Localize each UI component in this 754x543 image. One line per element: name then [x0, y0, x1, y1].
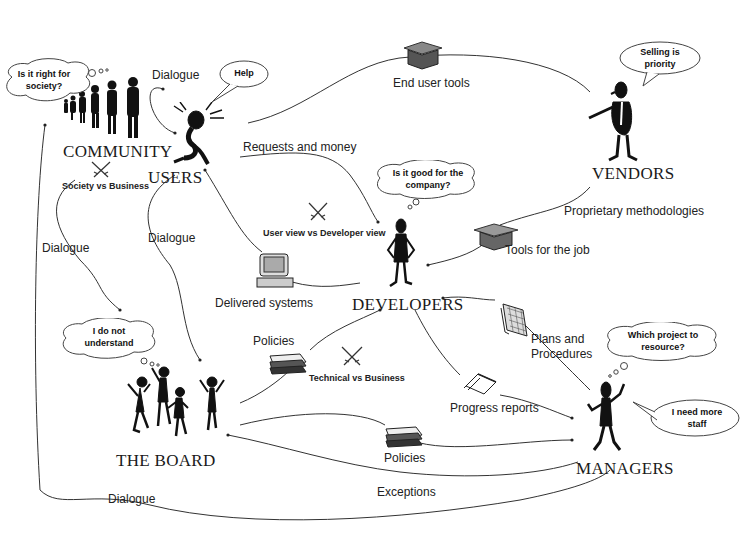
speech-text-vendors: Selling is priority	[628, 44, 692, 72]
flow-label-dialogue-community-board: Dialogue	[42, 241, 89, 255]
flow-label-dialogue-bottom: Dialogue	[108, 492, 155, 506]
thought-text-community: Is it right for society?	[4, 63, 84, 97]
flow-label-requests-money: Requests and money	[243, 140, 356, 154]
flow-label-plans-procedures: Plans and Procedures	[531, 332, 591, 362]
flow-label-policies-board-managers: Policies	[384, 451, 425, 465]
papers-stack-icon	[264, 352, 308, 376]
crossed-swords-icon	[90, 160, 112, 180]
flow-label-policies-board-developers: Policies	[253, 334, 294, 348]
computer-icon-delivered-systems	[255, 252, 295, 290]
speech-text-users: Help	[222, 63, 266, 83]
thought-text-managers: Which project to resource?	[615, 326, 711, 356]
thought-text-board: I do not understand	[78, 322, 140, 352]
flow-label-tools-for-job: Tools for the job	[505, 243, 590, 257]
flow-label-dialogue-users-board: Dialogue	[148, 231, 195, 245]
reports-stack-icon	[462, 370, 504, 398]
box-icon-end-user-tools	[400, 38, 446, 70]
flow-label-dialogue-community-users: Dialogue	[152, 68, 199, 82]
crossed-swords-icon	[307, 201, 329, 223]
conflict-user-developer: User view vs Developer view	[263, 228, 386, 238]
actor-vendors: VENDORS	[592, 164, 674, 184]
flow-label-exceptions: Exceptions	[377, 485, 436, 499]
conflict-technical-business: Technical vs Business	[309, 373, 405, 383]
papers-stack-icon	[380, 425, 424, 449]
flow-label-progress-reports: Progress reports	[450, 401, 539, 415]
developer-figure-icon	[384, 218, 420, 290]
actor-the-board: THE BOARD	[116, 451, 216, 471]
speech-text-managers: I need more staff	[662, 404, 732, 432]
actor-community: COMMUNITY	[63, 142, 172, 162]
flow-label-proprietary-methodologies: Proprietary methodologies	[564, 204, 704, 218]
actor-developers: DEVELOPERS	[352, 295, 464, 315]
manager-figure-icon	[580, 380, 636, 456]
plans-document-icon	[497, 300, 533, 340]
flow-label-end-user-tools: End user tools	[393, 76, 470, 90]
board-figures-icon	[126, 362, 236, 442]
vendor-figure-icon	[585, 80, 645, 165]
diagram-canvas: Is it right for society? COMMUNITY Dialo…	[0, 0, 754, 543]
users-figure-icon	[168, 102, 228, 170]
thought-text-developers: Is it good for the company?	[383, 164, 473, 194]
actor-managers: MANAGERS	[576, 459, 674, 479]
actor-users: USERS	[148, 168, 202, 188]
flow-label-delivered-systems: Delivered systems	[215, 296, 313, 310]
conflict-society-business: Society vs Business	[62, 181, 149, 191]
crossed-swords-icon	[340, 345, 364, 369]
